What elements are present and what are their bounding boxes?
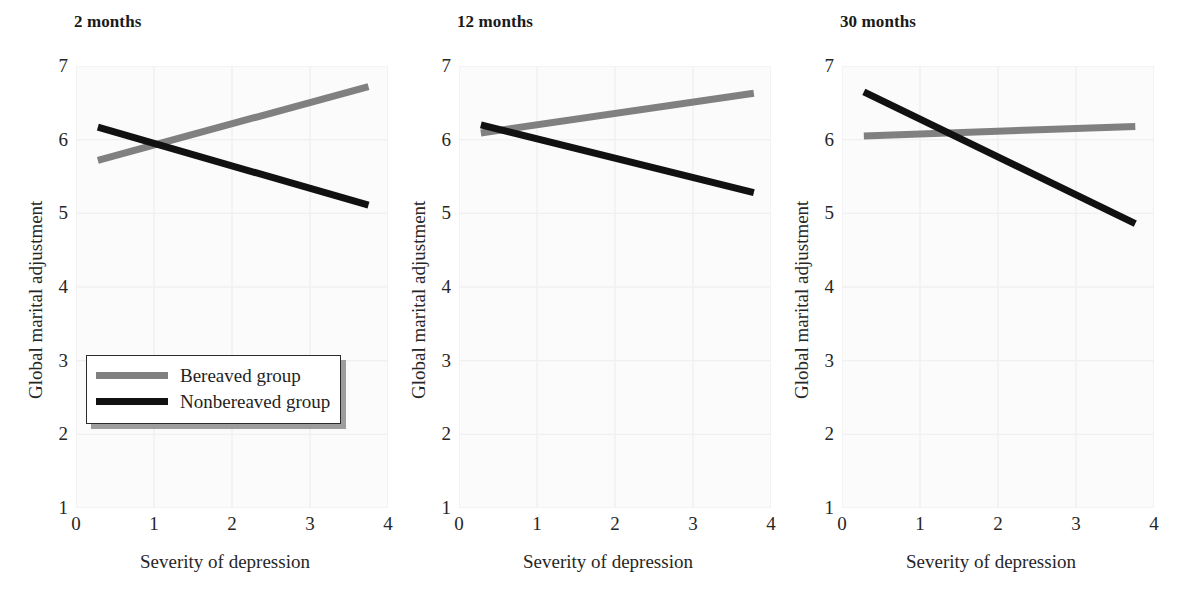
y-tick-label: 3 [429, 351, 451, 370]
panel-title: 12 months [457, 12, 533, 32]
y-tick-label: 6 [812, 130, 834, 149]
y-tick-label: 4 [429, 277, 451, 296]
panel-title: 2 months [74, 12, 141, 32]
plot-area [76, 66, 388, 508]
y-tick-label: 6 [429, 130, 451, 149]
legend-item-bereaved: Bereaved group [96, 363, 330, 389]
y-axis-label: Global marital adjustment [409, 201, 428, 399]
legend-item-nonbereaved: Nonbereaved group [96, 389, 330, 415]
legend-label: Nonbereaved group [180, 392, 330, 411]
x-axis-label: Severity of depression [906, 552, 1076, 571]
y-tick-label: 7 [429, 56, 451, 75]
x-tick-label: 2 [986, 514, 1010, 533]
x-tick-label: 2 [603, 514, 627, 533]
legend-label: Bereaved group [180, 366, 301, 385]
series-line-nonbereaved [98, 127, 369, 205]
series-line-nonbereaved [481, 125, 754, 193]
y-tick-label: 6 [46, 130, 68, 149]
x-tick-label: 0 [830, 514, 854, 533]
series-line-nonbereaved [864, 92, 1135, 224]
x-tick-label: 0 [447, 514, 471, 533]
y-axis-label: Global marital adjustment [26, 201, 45, 399]
chart-panel-1: 2 months123456701234Severity of depressi… [0, 0, 396, 598]
y-tick-label: 2 [812, 424, 834, 443]
y-tick-label: 5 [46, 203, 68, 222]
x-tick-label: 3 [298, 514, 322, 533]
legend-swatch-icon [96, 398, 168, 405]
chart-panel-2: 12 months123456701234Severity of depress… [383, 0, 779, 598]
legend: Bereaved groupNonbereaved group [86, 355, 341, 424]
y-tick-label: 2 [429, 424, 451, 443]
x-tick-label: 3 [1064, 514, 1088, 533]
y-tick-label: 7 [46, 56, 68, 75]
x-tick-label: 4 [1142, 514, 1166, 533]
y-tick-label: 3 [812, 351, 834, 370]
series-layer [76, 66, 388, 508]
plot-area [842, 66, 1154, 508]
x-tick-label: 1 [908, 514, 932, 533]
panel-title: 30 months [840, 12, 916, 32]
y-tick-label: 7 [812, 56, 834, 75]
y-tick-label: 2 [46, 424, 68, 443]
y-tick-label: 5 [812, 203, 834, 222]
legend-swatch-icon [96, 372, 168, 379]
series-line-bereaved [98, 87, 369, 161]
y-tick-label: 3 [46, 351, 68, 370]
y-axis-label: Global marital adjustment [792, 201, 811, 399]
plot-area [459, 66, 771, 508]
x-tick-label: 3 [681, 514, 705, 533]
x-tick-label: 0 [64, 514, 88, 533]
series-line-bereaved [864, 126, 1135, 136]
figure-three-panel-line-chart: 2 months123456701234Severity of depressi… [0, 0, 1188, 598]
x-tick-label: 2 [220, 514, 244, 533]
y-tick-label: 4 [812, 277, 834, 296]
y-tick-label: 5 [429, 203, 451, 222]
series-line-bereaved [481, 93, 754, 133]
y-tick-label: 4 [46, 277, 68, 296]
x-tick-label: 1 [525, 514, 549, 533]
x-tick-label: 1 [142, 514, 166, 533]
x-axis-label: Severity of depression [523, 552, 693, 571]
series-layer [842, 66, 1154, 508]
chart-panel-3: 30 months123456701234Severity of depress… [766, 0, 1162, 598]
series-layer [459, 66, 771, 508]
x-axis-label: Severity of depression [140, 552, 310, 571]
